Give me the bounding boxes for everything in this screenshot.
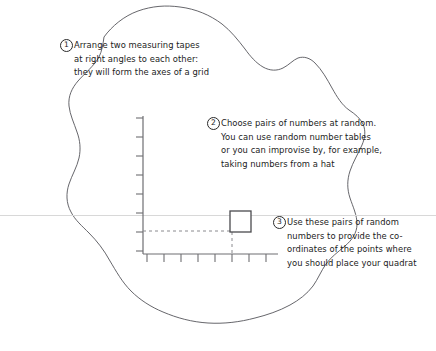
callout-3-line: ordinates of the points where bbox=[287, 243, 417, 257]
y-axis-ticks bbox=[136, 118, 143, 251]
callout-3-line: numbers to provide the co- bbox=[287, 230, 417, 244]
callout-1: 1 Arrange two measuring tapes at right a… bbox=[60, 39, 209, 80]
callout-3-line: you should place your quadrat bbox=[287, 257, 417, 271]
quadrat-sampling-figure: 1 Arrange two measuring tapes at right a… bbox=[0, 0, 436, 351]
callout-2: 2 Choose pairs of numbers at random. You… bbox=[207, 117, 382, 171]
callout-3: 3 Use these pairs of random numbers to p… bbox=[273, 216, 417, 270]
coordinate-guides bbox=[143, 231, 232, 254]
callout-3-line: Use these pairs of random bbox=[287, 216, 417, 230]
callout-2-line: taking numbers from a hat bbox=[221, 158, 382, 172]
callout-2-line: You can use random number tables bbox=[221, 131, 382, 145]
callout-1-number: 1 bbox=[60, 39, 73, 52]
callout-3-number: 3 bbox=[273, 216, 286, 229]
callout-2-line: or you can improvise by, for example, bbox=[221, 144, 382, 158]
quadrat-square bbox=[230, 211, 251, 232]
callout-2-text: Choose pairs of numbers at random. You c… bbox=[221, 117, 382, 171]
callout-1-line: Arrange two measuring tapes bbox=[74, 39, 209, 53]
callout-1-line: they will form the axes of a grid bbox=[74, 66, 209, 80]
callout-1-text: Arrange two measuring tapes at right ang… bbox=[74, 39, 209, 80]
callout-2-line: Choose pairs of numbers at random. bbox=[221, 117, 382, 131]
callout-2-number: 2 bbox=[207, 117, 220, 130]
callout-3-text: Use these pairs of random numbers to pro… bbox=[287, 216, 417, 270]
callout-1-line: at right angles to each other: bbox=[74, 53, 209, 67]
x-axis-ticks bbox=[147, 254, 266, 262]
